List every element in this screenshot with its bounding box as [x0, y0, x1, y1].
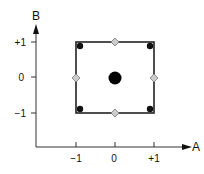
b-axis-label: B [32, 9, 40, 23]
b-axis-arrow-icon [33, 24, 39, 34]
center-point [109, 72, 122, 85]
factorial-point [147, 43, 153, 49]
a-tick-label-plus1: +1 [148, 153, 160, 164]
factorial-point [77, 43, 83, 49]
axial-point-diamond-icon [150, 74, 158, 82]
factorial-point [147, 106, 153, 112]
a-tick-label-minus1: −1 [70, 153, 82, 164]
b-tick-label-plus1: +1 [15, 37, 27, 48]
a-axis-label: A [192, 140, 200, 154]
b-tick-label-0: 0 [18, 72, 24, 83]
axial-point-diamond-icon [111, 38, 119, 46]
design-diagram: B A +1 0 −1 −1 0 +1 [0, 0, 204, 174]
b-tick-label-minus1: −1 [15, 108, 27, 119]
axial-point-diamond-icon [111, 109, 119, 117]
a-axis-arrow-icon [182, 144, 192, 150]
a-tick-label-0: 0 [111, 153, 117, 164]
factorial-point [77, 106, 83, 112]
axial-point-diamond-icon [72, 74, 80, 82]
